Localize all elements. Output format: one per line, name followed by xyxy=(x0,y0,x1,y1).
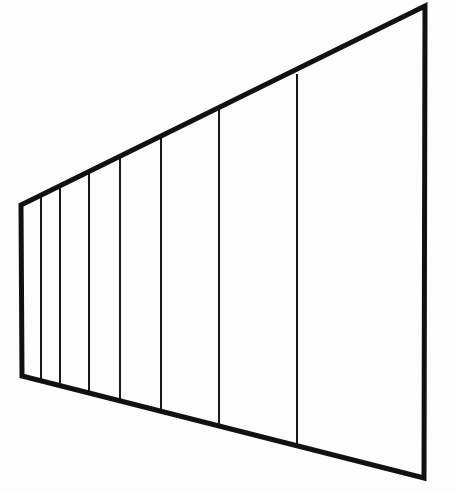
figure-canvas xyxy=(0,0,456,493)
perspective-fence-drawing xyxy=(0,0,456,493)
